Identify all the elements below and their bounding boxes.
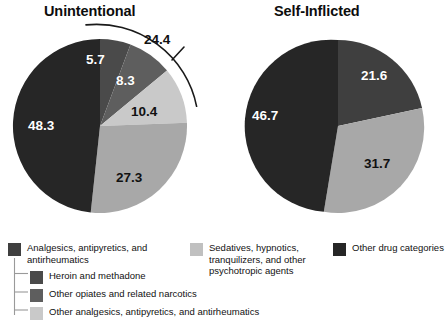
- legend-swatch-other-analgesics-icon: [30, 307, 43, 320]
- legend-label-sedatives: Sedatives, hypnotics, tranquilizers, and…: [209, 242, 321, 277]
- chart-title-unintentional: Unintentional: [44, 3, 135, 19]
- legend-label-heroin: Heroin and methadone: [49, 270, 146, 282]
- pie-value-8-3: 8.3: [116, 73, 135, 88]
- pie-svg-self-inflicted: [240, 36, 440, 222]
- legend-swatch-analgesics-icon: [8, 243, 21, 256]
- pie-slice-other-drugs-right: [245, 40, 338, 212]
- legend-item-other-drugs[interactable]: Other drug categories: [333, 242, 448, 256]
- pie-chart-self-inflicted: 21.6 31.7 46.7: [240, 36, 440, 222]
- legend-group-analgesics: Analgesics, antipyretics, and antirheuma…: [8, 242, 208, 322]
- legend-group-other-drugs: Other drug categories: [333, 242, 448, 258]
- legend-label-other-opiates: Other opiates and related narcotics: [49, 288, 197, 300]
- legend-swatch-sedatives-icon: [190, 243, 203, 256]
- pie-value-5-7: 5.7: [86, 52, 105, 67]
- pie-value-46-7: 46.7: [252, 108, 278, 123]
- pie-value-27-3: 27.3: [116, 170, 142, 185]
- legend-item-other-opiates[interactable]: Other opiates and related narcotics: [30, 288, 208, 302]
- pie-value-48-3: 48.3: [28, 118, 54, 133]
- pie-value-21-6: 21.6: [361, 68, 387, 83]
- legend-label-analgesics: Analgesics, antipyretics, and antirheuma…: [27, 242, 187, 265]
- pie-value-10-4: 10.4: [131, 104, 157, 119]
- legend-label-other-analgesics: Other analgesics, antipyretics, and anti…: [49, 306, 259, 318]
- legend-item-heroin[interactable]: Heroin and methadone: [30, 270, 208, 284]
- legend-swatch-heroin-icon: [30, 271, 43, 284]
- pie-slice-sedatives: [91, 123, 187, 213]
- legend-swatch-other-opiates-icon: [30, 289, 43, 302]
- legend-item-analgesics-parent[interactable]: Analgesics, antipyretics, and antirheuma…: [8, 242, 208, 265]
- legend-label-other-drugs: Other drug categories: [352, 242, 444, 254]
- pie-chart-figure: Unintentional Self-Inflicted 5.7 8.3 10.…: [0, 0, 448, 333]
- bracket-value-24-4: 24.4: [144, 32, 170, 47]
- chart-title-self-inflicted: Self-Inflicted: [274, 3, 360, 19]
- legend-swatch-other-drugs-icon: [333, 243, 346, 256]
- legend-item-sedatives[interactable]: Sedatives, hypnotics, tranquilizers, and…: [190, 242, 330, 277]
- legend-group-sedatives: Sedatives, hypnotics, tranquilizers, and…: [190, 242, 330, 279]
- pie-chart-unintentional: 5.7 8.3 10.4 27.3 48.3: [10, 36, 210, 222]
- chart-legend: Analgesics, antipyretics, and antirheuma…: [0, 236, 448, 333]
- legend-item-other-analgesics[interactable]: Other analgesics, antipyretics, and anti…: [30, 306, 208, 320]
- pie-value-31-7: 31.7: [364, 156, 390, 171]
